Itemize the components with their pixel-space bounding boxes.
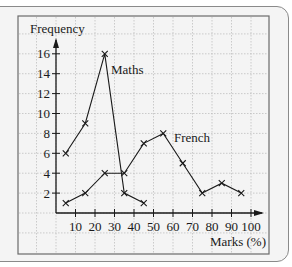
svg-text:2: 2: [44, 186, 51, 201]
french-label: French: [174, 130, 211, 145]
y-axis-label: Frequency: [30, 21, 85, 36]
svg-text:16: 16: [37, 46, 51, 61]
maths-label: Maths: [111, 62, 144, 77]
svg-text:50: 50: [147, 219, 160, 234]
svg-text:70: 70: [186, 219, 199, 234]
svg-text:8: 8: [44, 126, 51, 141]
svg-text:20: 20: [89, 219, 102, 234]
axes: [53, 38, 264, 216]
svg-text:30: 30: [108, 219, 121, 234]
svg-text:6: 6: [44, 146, 51, 161]
svg-text:40: 40: [128, 219, 141, 234]
svg-text:12: 12: [37, 86, 50, 101]
svg-text:80: 80: [206, 219, 219, 234]
svg-text:90: 90: [225, 219, 238, 234]
svg-text:4: 4: [44, 166, 51, 181]
line-chart: 246810121416102030405060708090100 Freque…: [0, 0, 292, 267]
x-axis-label: Marks (%): [210, 234, 266, 249]
svg-text:14: 14: [37, 66, 51, 81]
svg-text:100: 100: [241, 219, 261, 234]
svg-text:60: 60: [167, 219, 180, 234]
svg-text:10: 10: [69, 219, 82, 234]
svg-text:10: 10: [37, 106, 50, 121]
